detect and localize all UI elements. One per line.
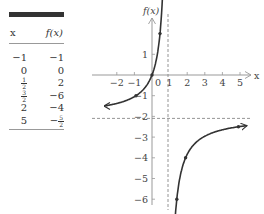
y-tick-label: −2 <box>134 111 148 122</box>
y-tick-label: −5 <box>134 173 148 184</box>
data-point <box>184 156 187 159</box>
y-tick-label: −6 <box>134 194 148 205</box>
y-tick-label: −4 <box>134 152 148 163</box>
x-tick-label: 5 <box>237 77 243 88</box>
x-tick-label: −2 <box>110 77 124 88</box>
curve <box>104 0 247 214</box>
x-tick-label: 1 <box>167 77 173 88</box>
x-tick-label: 2 <box>184 77 190 88</box>
y-axis-label: f(x) <box>142 5 160 16</box>
y-tick-label: −1 <box>134 90 148 101</box>
x-tick-label: −1 <box>127 77 141 88</box>
data-points <box>134 32 240 201</box>
x-axis-label: x <box>254 70 260 81</box>
data-point <box>237 125 240 128</box>
y-tick-label: −3 <box>134 132 148 143</box>
y-tick-label: 1 <box>142 49 148 60</box>
data-point <box>150 73 153 76</box>
data-point <box>158 32 161 35</box>
axes <box>92 18 251 205</box>
x-tick-label: 4 <box>219 77 225 88</box>
data-point <box>175 198 178 201</box>
x-tick-label: 3 <box>202 77 208 88</box>
axis-labels: −2−10123451−1−2−3−4−5−6xf(x) <box>110 5 260 205</box>
asymptotes <box>92 14 252 210</box>
function-graph: −2−10123451−1−2−3−4−5−6xf(x) <box>0 0 264 214</box>
right-branch <box>173 126 247 214</box>
x-tick-label: 0 <box>155 77 161 88</box>
